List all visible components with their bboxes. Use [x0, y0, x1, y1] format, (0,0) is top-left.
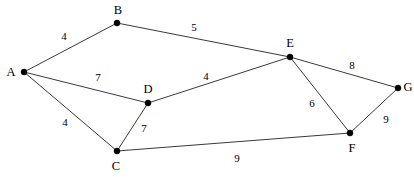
- edge-weight-a-d: 7: [95, 72, 101, 83]
- graph-edge-c-f: [117, 133, 350, 151]
- edge-weight-f-g: 9: [383, 114, 389, 125]
- graph-edge-a-b: [24, 23, 117, 72]
- graph-edge-f-g: [350, 88, 398, 133]
- edge-weight-a-b: 4: [61, 31, 67, 42]
- graph-edge-e-g: [290, 57, 398, 88]
- graph-node-c: [114, 148, 120, 154]
- edge-weight-c-d: 7: [141, 123, 147, 134]
- graph-node-g: [395, 85, 401, 91]
- edge-weight-c-f: 9: [234, 153, 240, 164]
- graph-node-a: [21, 69, 27, 75]
- node-label-e: E: [286, 37, 294, 50]
- graph-edge-b-e: [117, 23, 290, 57]
- edge-weight-b-e: 5: [191, 22, 197, 33]
- graph-edge-e-f: [290, 57, 350, 133]
- node-label-a: A: [6, 66, 15, 79]
- edges-group: [24, 23, 398, 151]
- graph-node-f: [347, 130, 353, 136]
- node-label-b: B: [114, 4, 122, 17]
- edge-weight-e-f: 6: [309, 98, 315, 109]
- node-label-f: F: [349, 142, 356, 155]
- node-label-d: D: [143, 83, 152, 96]
- graph-node-b: [114, 20, 120, 26]
- node-label-c: C: [112, 160, 120, 173]
- graph-node-d: [145, 100, 151, 106]
- graph-diagram: ABCDEFG 4574479689: [0, 0, 414, 177]
- graph-edge-d-e: [148, 57, 290, 103]
- graph-node-e: [287, 54, 293, 60]
- edge-weight-d-e: 4: [203, 71, 209, 82]
- edge-weight-a-c: 4: [62, 117, 68, 128]
- edge-weight-e-g: 8: [349, 60, 355, 71]
- node-label-g: G: [403, 81, 412, 94]
